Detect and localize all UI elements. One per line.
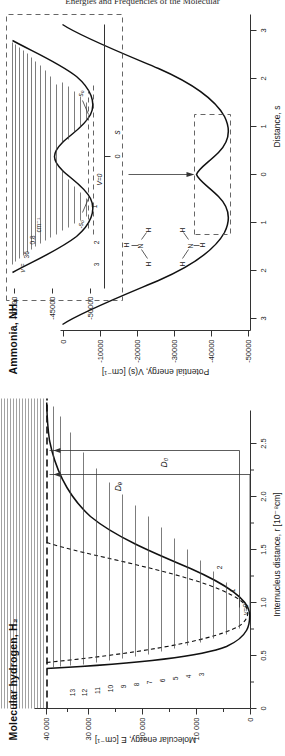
- nh3-inset-level-label-3: 3: [92, 262, 99, 266]
- nh3-xtick-0: 0: [258, 172, 267, 176]
- panel-h2-plot: 0 10 000 20 000 30 000 40 000: [0, 398, 285, 750]
- nh3-inset-gap-unit: cm⁻¹: [34, 216, 41, 232]
- figure-body: Molecular hydrogen, H₂ 0: [0, 0, 285, 756]
- nh3-inset-nu-value: 36: [22, 250, 29, 258]
- nh3-xtick-p2: 2: [258, 76, 267, 80]
- nh3-inset-region-box: [194, 114, 230, 234]
- nh3-xtick-m1: 1: [258, 220, 267, 224]
- figure-page: Energies and Frequencies of the Molecula…: [0, 0, 285, 756]
- nh3-lower-atom-h3: H: [198, 242, 205, 247]
- nh3-inset-gap-value: 0.8: [28, 235, 35, 244]
- h2-level-label-9: 9: [119, 684, 126, 688]
- nh3-xtick-m3: 3: [258, 316, 267, 320]
- h2-harmonic-parabola: [46, 542, 247, 662]
- nh3-inset-nu-label: ν =: [18, 263, 25, 272]
- h2-ytick-30000: 30 000: [84, 717, 93, 740]
- nh3-inset-level-label-2: 2: [92, 240, 99, 244]
- nh3-inset-level-label-v0: V=0: [95, 173, 102, 185]
- nh3-inset-marker-minus-s0: -s₀: [76, 220, 83, 228]
- nh3-inset-level-label-1: 1: [90, 204, 97, 208]
- h2-label-De: Dₑ: [112, 481, 122, 490]
- nh3-upper-atom-h3: H: [122, 242, 129, 247]
- nh3-inset-xtick-label-0: 0: [112, 154, 121, 158]
- h2-level-label-10: 10: [106, 684, 113, 692]
- panel-h2-title: Molecular hydrogen, H₂: [6, 618, 18, 740]
- h2-ytick-40000: 40 000: [42, 717, 51, 740]
- h2-dissociation-arrows: [49, 448, 250, 612]
- rotated-figure-wrapper: Molecular hydrogen, H₂ 0: [0, 0, 285, 756]
- h2-label-D0: D₀: [158, 457, 168, 467]
- nh3-upper-atom-h1: H: [144, 261, 151, 266]
- nh3-xtick-p1: 1: [258, 124, 267, 128]
- h2-level-label-1: 1: [228, 588, 235, 592]
- nh3-inset-curve: [12, 40, 92, 272]
- nh3-double-well-curve: [62, 24, 228, 324]
- h2-level-label-3: 3: [197, 672, 204, 676]
- nh3-x-axis-label: Distance, s: [271, 105, 281, 147]
- h2-level-label-v0: v=0: [241, 603, 248, 614]
- panel-nh3-plot: 0 -10000 -20000 -30000 -40000 -50000 3: [0, 2, 285, 384]
- nh3-xtick-p3: 3: [258, 28, 267, 32]
- nh3-ytick-30000: -30000: [170, 339, 179, 362]
- nh3-lower-atom-h2: H: [178, 227, 185, 232]
- h2-xtick-0-5: 0.5: [258, 650, 267, 660]
- h2-level-label-2: 2: [215, 565, 222, 569]
- h2-xtick-1-0: 1.0: [258, 597, 267, 607]
- h2-level-label-5: 5: [171, 676, 178, 680]
- nh3-ytick-40000: -40000: [207, 339, 216, 362]
- nh3-ytick-0: 0: [59, 339, 68, 343]
- h2-level-label-7: 7: [145, 680, 152, 684]
- nh3-molecule-upper: H N H H: [122, 227, 151, 266]
- h2-vibrational-levels: [53, 406, 239, 667]
- nh3-inset-y-ticks: [14, 288, 90, 293]
- nh3-lower-atom-n: N: [186, 243, 193, 248]
- nh3-inset: 0 s -40000 -45000 -50000: [6, 14, 122, 319]
- panel-nh3: Ammonia, NH₃ 0 -10000 -20000 -30000: [0, 2, 285, 384]
- h2-level-label-4: 4: [184, 674, 191, 678]
- nh3-y-axis-label: Potential energy, V(s) [cm⁻¹]: [101, 366, 208, 376]
- nh3-inset-ytick-50000: -50000: [86, 296, 95, 319]
- h2-level-label-13: 13: [68, 688, 75, 696]
- nh3-lower-atom-h1: H: [178, 261, 185, 266]
- nh3-xtick-m2: 2: [258, 268, 267, 272]
- h2-xtick-2-5: 2.5: [258, 438, 267, 448]
- h2-xtick-1-5: 1.5: [258, 544, 267, 554]
- h2-xtick-0: 0: [258, 706, 267, 710]
- h2-level-label-11: 11: [93, 686, 100, 693]
- nh3-ytick-50000: -50000: [244, 339, 253, 362]
- nh3-inset-x-axis-label: s: [111, 129, 121, 134]
- h2-level-label-8: 8: [132, 682, 139, 686]
- nh3-inset-marker-s0: s₀: [76, 90, 83, 96]
- nh3-inset-ytick-45000: -45000: [48, 296, 57, 319]
- nh3-inset-connector: [128, 171, 194, 176]
- h2-y-axis-label: Molecular energy, E [cm⁻¹]: [94, 734, 195, 744]
- h2-level-label-6: 6: [158, 678, 165, 682]
- h2-morse-curve: [46, 402, 249, 668]
- nh3-upper-atom-h2: H: [144, 227, 151, 232]
- nh3-molecule-lower: H N H H: [178, 227, 205, 266]
- h2-xtick-2-0: 2.0: [258, 491, 267, 501]
- h2-x-axis-label: Internucleus distance, r [10⁻⁸cm]: [271, 492, 281, 616]
- panel-h2: Molecular hydrogen, H₂ 0: [0, 398, 285, 750]
- h2-ytick-0: 0: [246, 717, 255, 721]
- h2-level-label-12: 12: [80, 688, 87, 696]
- nh3-ytick-10000: -10000: [96, 339, 105, 362]
- nh3-ytick-20000: -20000: [133, 339, 142, 362]
- panel-nh3-title: Ammonia, NH₃: [6, 298, 18, 374]
